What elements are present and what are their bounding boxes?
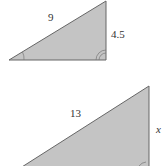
large-hypotenuse-label: 13 (70, 108, 81, 119)
large-triangle (14, 86, 149, 166)
small-side-label: 4.5 (111, 29, 125, 40)
similar-triangles-figure: 9 4.5 13 x (0, 0, 164, 166)
triangles-drawing (0, 0, 164, 166)
small-hypotenuse-label: 9 (48, 12, 54, 23)
large-side-label: x (156, 124, 161, 135)
small-triangle (9, 1, 106, 60)
